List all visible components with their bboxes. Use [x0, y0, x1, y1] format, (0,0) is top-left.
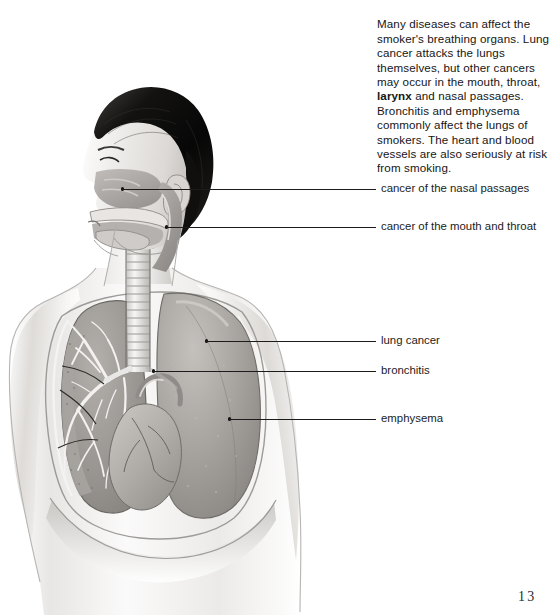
callout-label-bronchitis: bronchitis	[381, 364, 430, 377]
intro-text-before: Many diseases can affect the smoker's br…	[377, 17, 549, 88]
callout-label-lung-cancer: lung cancer	[381, 334, 440, 347]
callout-label-mouth-throat: cancer of the mouth and throat	[381, 220, 536, 233]
leader-line-bronchitis	[153, 371, 376, 372]
callout-label-emphysema: emphysema	[381, 412, 443, 425]
leader-line-mouth-throat	[166, 227, 376, 228]
callout-label-nasal-passages: cancer of the nasal passages	[381, 182, 529, 195]
anatomy-illustration	[0, 0, 340, 615]
trachea	[126, 246, 150, 372]
anatomy-svg	[0, 0, 340, 615]
intro-bold-term: larynx	[377, 89, 412, 102]
leader-line-emphysema	[229, 419, 376, 420]
intro-paragraph: Many diseases can affect the smoker's br…	[377, 3, 559, 176]
illustration-page: Many diseases can affect the smoker's br…	[0, 0, 559, 615]
page-number: 13	[518, 589, 536, 605]
leader-line-lung-cancer	[206, 341, 376, 342]
leader-line-nasal-passages	[122, 189, 376, 190]
